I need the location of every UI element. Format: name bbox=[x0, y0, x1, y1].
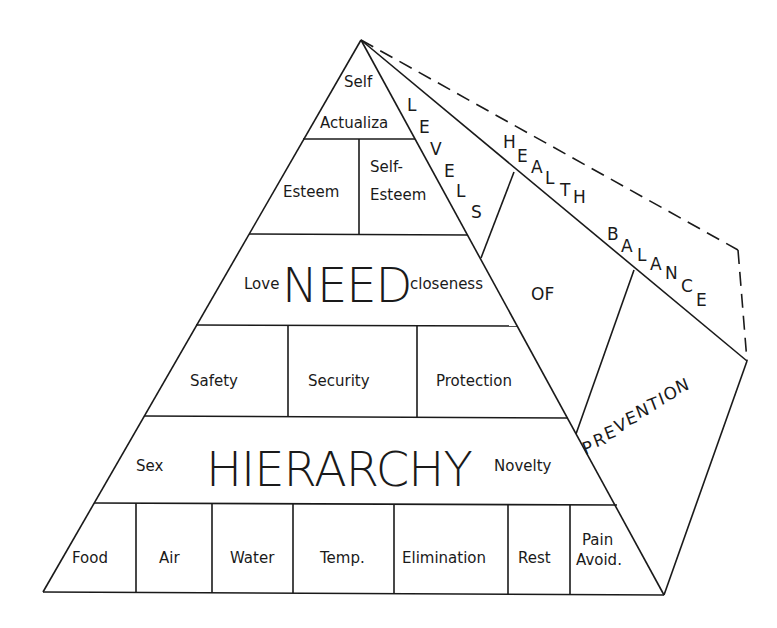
cell-dividers bbox=[136, 139, 570, 594]
svg-text:A: A bbox=[531, 157, 543, 177]
label-actualiza: Actualiza bbox=[320, 114, 388, 132]
svg-text:A: A bbox=[621, 236, 633, 256]
svg-text:C: C bbox=[681, 276, 693, 296]
label-self-dash: Self- bbox=[370, 158, 403, 176]
label-hierarchy: HIERARCHY bbox=[206, 441, 472, 497]
svg-text:S: S bbox=[471, 202, 482, 222]
label-protection: Protection bbox=[436, 372, 512, 390]
pyramid-diagram: Self Actualiza Esteem Self- Esteem Love … bbox=[0, 0, 777, 628]
svg-text:L: L bbox=[456, 181, 466, 201]
svg-text:L: L bbox=[637, 245, 647, 265]
label-security: Security bbox=[308, 372, 370, 390]
tier-sex: Sex HIERARCHY Novelty bbox=[136, 441, 552, 497]
label-of: OF bbox=[531, 284, 554, 304]
label-self: Self bbox=[344, 73, 373, 91]
svg-text:E: E bbox=[419, 117, 430, 137]
svg-text:T: T bbox=[559, 180, 571, 200]
label-sex: Sex bbox=[136, 457, 163, 475]
svg-text:A: A bbox=[650, 254, 662, 274]
label-elimination: Elimination bbox=[402, 549, 486, 567]
label-air: Air bbox=[159, 549, 180, 567]
label-need: NEED bbox=[282, 257, 412, 313]
label-rest: Rest bbox=[518, 549, 551, 567]
svg-text:B: B bbox=[607, 224, 619, 244]
label-prevention: P R E V E N T I O N bbox=[571, 374, 700, 459]
label-closeness: closeness bbox=[410, 275, 483, 293]
label-pain: Pain bbox=[582, 531, 613, 549]
label-health: H E A L T H bbox=[503, 132, 586, 207]
svg-text:E: E bbox=[444, 161, 455, 181]
label-temp: Temp. bbox=[319, 549, 365, 567]
label-avoid: Avoid. bbox=[576, 551, 622, 569]
label-self-esteem: Esteem bbox=[370, 186, 426, 204]
label-water: Water bbox=[230, 549, 275, 567]
label-food: Food bbox=[72, 549, 108, 567]
svg-text:N: N bbox=[665, 263, 678, 283]
tier-self-actualization: Self Actualiza bbox=[320, 73, 388, 132]
tier-love: Love NEED closeness bbox=[244, 257, 483, 313]
svg-text:H: H bbox=[503, 132, 516, 152]
svg-text:E: E bbox=[517, 146, 528, 166]
tier-physiological: Food Air Water Temp. Elimination Rest Pa… bbox=[72, 531, 622, 569]
svg-text:H: H bbox=[573, 187, 586, 207]
svg-text:L: L bbox=[407, 95, 417, 115]
svg-text:E: E bbox=[696, 290, 707, 310]
svg-text:L: L bbox=[545, 168, 555, 188]
tier-safety: Safety Security Protection bbox=[190, 372, 512, 390]
label-balance: B A L A N C E bbox=[607, 224, 707, 310]
label-novelty: Novelty bbox=[494, 457, 552, 475]
label-esteem: Esteem bbox=[283, 183, 339, 201]
label-safety: Safety bbox=[190, 372, 238, 390]
svg-text:V: V bbox=[430, 139, 442, 159]
tier-esteem: Esteem Self- Esteem bbox=[283, 158, 426, 204]
label-love: Love bbox=[244, 275, 279, 293]
